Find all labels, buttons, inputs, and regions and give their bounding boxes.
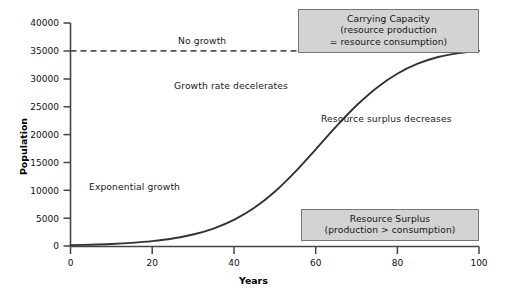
annotation-no-growth: No growth bbox=[178, 35, 226, 46]
annotation-growth-rate-decelerates: Growth rate decelerates bbox=[174, 80, 288, 91]
x-axis-title: Years bbox=[239, 275, 268, 286]
x-axis-ticks bbox=[71, 247, 480, 255]
x-tick-label: 20 bbox=[146, 258, 158, 268]
y-tick-label: 30000 bbox=[30, 74, 59, 84]
callout-resource-surplus: Resource Surplus (production > consumpti… bbox=[301, 209, 479, 241]
y-tick-label: 15000 bbox=[30, 158, 59, 168]
x-tick-label: 40 bbox=[228, 258, 240, 268]
y-tick-label: 10000 bbox=[30, 186, 59, 196]
callout-resource-surplus-line-1: Resource Surplus bbox=[302, 213, 478, 224]
y-tick-label: 35000 bbox=[30, 46, 59, 56]
x-tick-label: 0 bbox=[68, 258, 74, 268]
x-tick-label: 60 bbox=[310, 258, 322, 268]
y-axis-ticks bbox=[64, 23, 71, 246]
y-axis-title: Population bbox=[18, 118, 29, 175]
callout-carrying-capacity-line-1: Carrying Capacity bbox=[299, 13, 478, 24]
x-axis-tick-labels: 0 20 40 60 80 100 bbox=[68, 258, 488, 268]
population-growth-chart: 40000 35000 30000 25000 20000 15000 1000… bbox=[0, 0, 507, 299]
x-tick-label: 100 bbox=[470, 258, 487, 268]
annotation-exponential-growth: Exponential growth bbox=[89, 181, 180, 192]
callout-carrying-capacity-line-3: = resource consumption) bbox=[299, 36, 478, 47]
callout-carrying-capacity: Carrying Capacity (resource production =… bbox=[298, 9, 479, 53]
y-tick-label: 20000 bbox=[30, 130, 59, 140]
annotation-resource-surplus-decreases: Resource surplus decreases bbox=[321, 113, 452, 124]
callout-resource-surplus-line-2: (production > consumption) bbox=[302, 224, 478, 235]
y-tick-label: 5000 bbox=[36, 214, 59, 224]
y-tick-label: 40000 bbox=[30, 18, 59, 28]
y-tick-label: 25000 bbox=[30, 102, 59, 112]
callout-carrying-capacity-line-2: (resource production bbox=[299, 24, 478, 35]
y-axis-tick-labels: 40000 35000 30000 25000 20000 15000 1000… bbox=[30, 18, 59, 251]
x-tick-label: 80 bbox=[392, 258, 404, 268]
y-tick-label: 0 bbox=[53, 241, 59, 251]
